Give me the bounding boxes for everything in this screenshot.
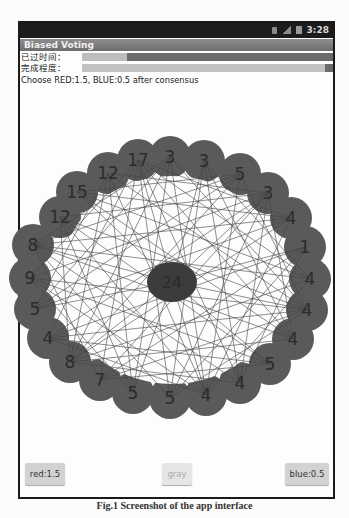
node-label: 17	[127, 150, 149, 170]
node-label: 4	[286, 208, 297, 228]
node-label: 4	[235, 373, 246, 393]
node-label: 4	[302, 300, 313, 320]
node-label: 12	[97, 163, 119, 183]
node-label: 7	[95, 370, 106, 390]
node-label: 3	[263, 183, 274, 203]
node-label: 4	[288, 329, 299, 349]
node-label: 3	[165, 147, 176, 167]
node-label: 5	[165, 388, 176, 408]
node-label: 3	[199, 151, 210, 171]
node-label: 1	[300, 237, 311, 257]
node-label: 4	[305, 269, 316, 289]
center-node[interactable]: 24	[147, 262, 197, 302]
node-label: 8	[28, 235, 39, 255]
voting-network-graph: 24 1733534144454455784598121512	[0, 0, 349, 518]
center-node-label: 24	[162, 273, 182, 292]
node-label: 4	[43, 328, 54, 348]
node-label: 5	[30, 299, 41, 319]
figure-caption: Fig.1 Screenshot of the app interface	[0, 500, 349, 511]
node-label: 9	[25, 268, 36, 288]
node-label: 15	[66, 182, 88, 202]
node-label: 5	[235, 164, 246, 184]
node-label: 4	[201, 385, 212, 405]
node-label: 8	[65, 352, 76, 372]
node-label: 5	[128, 383, 139, 403]
node-label: 5	[265, 354, 276, 374]
node-label: 12	[49, 207, 71, 227]
